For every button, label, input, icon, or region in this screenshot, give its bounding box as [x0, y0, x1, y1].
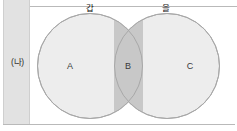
left-column-label: (나) — [4, 55, 31, 67]
left-label-column: (나) — [3, 0, 30, 124]
bottom-divider-rule — [3, 124, 235, 125]
region-label-c: C — [180, 61, 200, 71]
set-label-gap: 갑 — [78, 1, 102, 13]
region-label-b: B — [118, 61, 138, 71]
venn-stage: 갑 을 A B C — [30, 7, 237, 124]
venn-diagram-figure: (나) 갑 을 A B C — [0, 0, 237, 131]
set-label-eul: 을 — [154, 1, 178, 13]
region-label-a: A — [60, 61, 80, 71]
